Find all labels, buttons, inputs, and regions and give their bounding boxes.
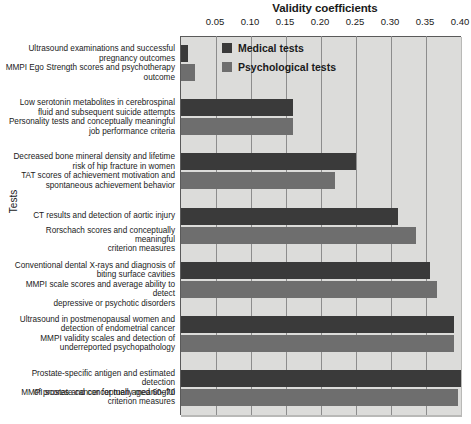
x-tick-label: 0.05 xyxy=(206,16,225,27)
y-category-label: Low serotonin metabolites in cerebrospin… xyxy=(5,98,175,117)
bar xyxy=(181,262,430,279)
y-category-label-line: risk of hip fracture in women xyxy=(5,162,175,171)
bar xyxy=(181,172,335,189)
y-category-label-line: Personality tests and conceptually meani… xyxy=(5,117,175,126)
y-category-label-line: biting surface cavities xyxy=(5,270,175,279)
y-category-label-line: depressive or psychotic disorders xyxy=(5,299,175,308)
y-category-label-line: MMPI scores and conceptually meaningful xyxy=(5,388,175,397)
bar xyxy=(181,227,416,244)
bar xyxy=(181,45,188,62)
y-category-label-line: MMPI Ego Strength scores and psychothera… xyxy=(5,63,175,72)
bar xyxy=(181,64,195,81)
x-tick-label: 0.40 xyxy=(451,16,470,27)
y-category-label-line: outcome xyxy=(5,73,175,82)
y-category-label-line: pregnancy outcomes xyxy=(5,54,175,63)
y-category-label-line: TAT scores of achievement motivation and xyxy=(5,171,175,180)
x-tick-label: 0.10 xyxy=(241,16,260,27)
y-category-label-line: Decreased bone mineral density and lifet… xyxy=(5,152,175,161)
bar xyxy=(181,153,356,170)
bar xyxy=(181,99,293,116)
gridline xyxy=(391,36,392,415)
x-tick-label: 0.30 xyxy=(381,16,400,27)
y-category-label: Personality tests and conceptually meani… xyxy=(5,117,175,136)
legend-item-psychological: Psychological tests xyxy=(222,60,336,73)
legend-label-medical: Medical tests xyxy=(238,42,304,54)
y-category-label: Rorschach scores and conceptually meanin… xyxy=(5,226,175,254)
y-category-label: MMPI scale scores and average ability to… xyxy=(5,280,175,308)
y-category-label-line: MMPI scale scores and average ability to… xyxy=(5,280,175,299)
validity-coefficients-chart: Validity coefficients 0.050.100.150.200.… xyxy=(0,0,471,424)
gridline xyxy=(251,36,252,415)
x-tick-label: 0.25 xyxy=(346,16,365,27)
bar xyxy=(181,118,293,135)
y-category-label: Decreased bone mineral density and lifet… xyxy=(5,152,175,171)
y-category-label: Ultrasound in postmenopausal women andde… xyxy=(5,315,175,334)
y-category-label-line: spontaneous achievement behavior xyxy=(5,181,175,190)
plot-area xyxy=(180,36,461,415)
y-category-label-line: criterion measures xyxy=(5,397,175,406)
x-tick-label: 0.15 xyxy=(276,16,295,27)
y-category-label: Ultrasound examinations and successfulpr… xyxy=(5,44,175,63)
y-category-label: CT results and detection of aortic injur… xyxy=(5,211,175,220)
y-category-label-line: detection of endometrial cancer xyxy=(5,324,175,333)
y-category-label-line: criterion measures xyxy=(5,244,175,253)
y-category-label-line: Conventional dental X-rays and diagnosis… xyxy=(5,261,175,270)
bar xyxy=(181,335,454,352)
gridline xyxy=(356,36,357,415)
y-axis-category-labels: Ultrasound examinations and successfulpr… xyxy=(0,36,178,415)
y-category-label: MMPI validity scales and detection ofund… xyxy=(5,334,175,353)
legend-swatch-medical-icon xyxy=(222,43,232,53)
legend-swatch-psychological-icon xyxy=(222,62,232,72)
y-category-label-line: Ultrasound in postmenopausal women and xyxy=(5,315,175,324)
y-category-label: MMPI Ego Strength scores and psychothera… xyxy=(5,63,175,82)
y-category-label: TAT scores of achievement motivation and… xyxy=(5,171,175,190)
y-category-label: Conventional dental X-rays and diagnosis… xyxy=(5,261,175,280)
x-tick-label: 0.35 xyxy=(416,16,435,27)
y-category-label-line: Rorschach scores and conceptually meanin… xyxy=(5,226,175,245)
bar xyxy=(181,281,437,298)
y-category-label-line: underreported psychopathology xyxy=(5,343,175,352)
bar xyxy=(181,208,398,225)
y-category-label: MMPI scores and conceptually meaningfulc… xyxy=(5,388,175,407)
y-category-label-line: MMPI validity scales and detection of xyxy=(5,334,175,343)
x-tick-label: 0.20 xyxy=(311,16,330,27)
chart-legend: Medical tests Psychological tests xyxy=(222,41,336,79)
y-category-label-line: Prostate-specific antigen and estimated … xyxy=(5,369,175,388)
y-category-label-line: Ultrasound examinations and successful xyxy=(5,44,175,53)
gridline xyxy=(426,36,427,415)
gridline xyxy=(321,36,322,415)
gridline xyxy=(286,36,287,415)
y-category-label-line: Low serotonin metabolites in cerebrospin… xyxy=(5,98,175,107)
bar xyxy=(181,370,461,387)
chart-title: Validity coefficients xyxy=(180,2,470,14)
y-category-label-line: CT results and detection of aortic injur… xyxy=(5,211,175,220)
y-category-label-line: job performance criteria xyxy=(5,127,175,136)
x-axis-tick-labels: 0.050.100.150.200.250.300.350.40 xyxy=(0,16,471,30)
gridline xyxy=(216,36,217,415)
y-category-label-line: fluid and subsequent suicide attempts xyxy=(5,108,175,117)
legend-item-medical: Medical tests xyxy=(222,41,336,54)
bar xyxy=(181,316,454,333)
legend-label-psychological: Psychological tests xyxy=(238,61,336,73)
y-axis-title: Tests xyxy=(8,177,19,227)
bar xyxy=(181,389,458,406)
